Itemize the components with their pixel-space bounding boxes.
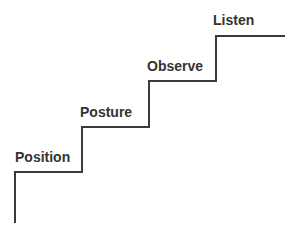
step-label-observe: Observe [147, 58, 203, 74]
step-label-posture: Posture [80, 104, 132, 120]
step-label-listen: Listen [213, 12, 254, 28]
step-label-position: Position [15, 149, 70, 165]
diagram-canvas: Position Posture Observe Listen [0, 0, 295, 231]
staircase-line-graphic [0, 0, 295, 231]
